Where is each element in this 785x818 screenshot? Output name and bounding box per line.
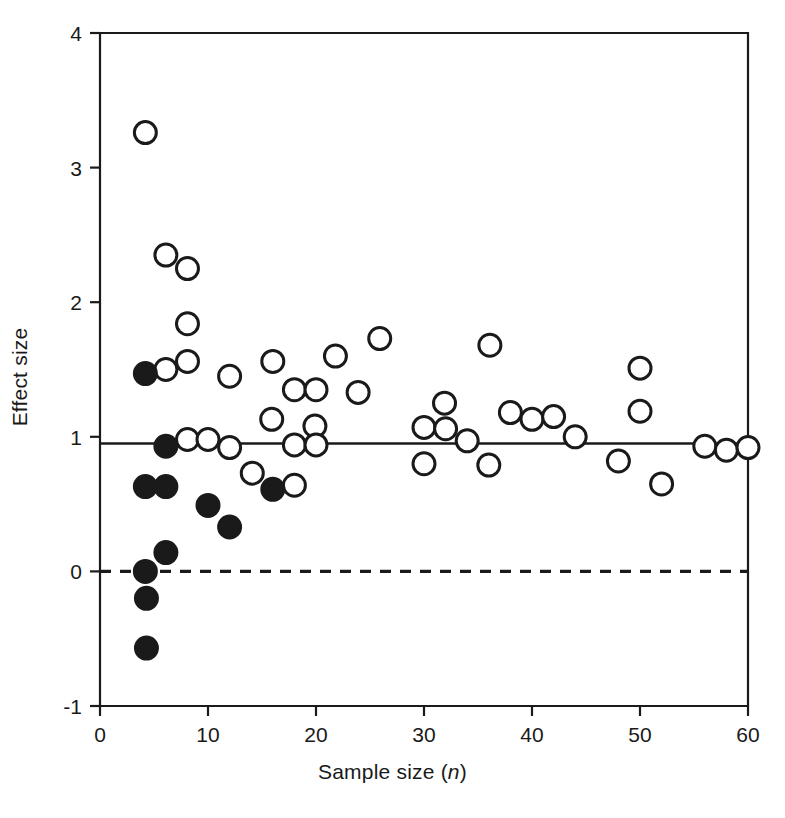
- open-circle: [499, 402, 521, 424]
- data-points: [134, 122, 759, 660]
- open-circle: [176, 313, 198, 335]
- open-circle: [347, 381, 369, 403]
- y-tick-label: 2: [70, 291, 82, 314]
- open-circle: [434, 392, 456, 414]
- scatter-plot-canvas: 0102030405060-101234: [0, 0, 785, 818]
- open-circle: [261, 408, 283, 430]
- y-axis-title: Effect size: [8, 277, 32, 477]
- open-circle: [283, 434, 305, 456]
- open-circle: [176, 428, 198, 450]
- x-tick-label: 0: [94, 723, 106, 746]
- open-circle: [694, 435, 716, 457]
- open-circle: [715, 439, 737, 461]
- open-circle: [369, 328, 391, 350]
- filled-circle: [134, 560, 156, 582]
- open-circle: [176, 350, 198, 372]
- y-tick-label: -1: [63, 695, 82, 718]
- funnel-plot-figure: 0102030405060-101234 Sample size (n) Eff…: [0, 0, 785, 818]
- open-circle: [413, 416, 435, 438]
- open-circle: [456, 430, 478, 452]
- filled-circle: [135, 587, 157, 609]
- open-circle: [241, 462, 263, 484]
- filled-circle: [219, 516, 241, 538]
- open-circle: [564, 426, 586, 448]
- open-circle: [176, 258, 198, 280]
- open-circle: [413, 453, 435, 475]
- open-circle: [197, 428, 219, 450]
- open-circle: [629, 357, 651, 379]
- x-tick-label: 30: [412, 723, 435, 746]
- open-circle: [521, 408, 543, 430]
- filled-circle: [155, 542, 177, 564]
- axis-tick-labels: 0102030405060-101234: [63, 22, 759, 746]
- open-circle: [651, 473, 673, 495]
- open-circle: [435, 418, 457, 440]
- filled-circle: [155, 435, 177, 457]
- open-circle: [479, 334, 501, 356]
- open-circle: [305, 434, 327, 456]
- x-axis-title-text: Sample size: [318, 760, 435, 783]
- filled-circle: [155, 476, 177, 498]
- filled-circle: [134, 476, 156, 498]
- filled-circle: [197, 494, 219, 516]
- open-circle: [283, 379, 305, 401]
- open-circle: [155, 244, 177, 266]
- x-tick-label: 20: [304, 723, 327, 746]
- filled-circle: [262, 478, 284, 500]
- y-tick-label: 4: [70, 22, 82, 45]
- x-tick-label: 50: [628, 723, 651, 746]
- open-circle: [155, 359, 177, 381]
- y-tick-label: 1: [70, 426, 82, 449]
- y-tick-label: 3: [70, 157, 82, 180]
- open-circle: [305, 379, 327, 401]
- open-circle: [262, 350, 284, 372]
- open-circle: [478, 454, 500, 476]
- filled-circle: [135, 637, 157, 659]
- x-tick-label: 40: [520, 723, 543, 746]
- open-circle: [283, 474, 305, 496]
- x-axis-title-paren-close: ): [460, 760, 467, 783]
- open-circle: [219, 365, 241, 387]
- x-axis-title-symbol: n: [448, 760, 460, 783]
- x-axis-title-paren: (: [435, 760, 448, 783]
- open-circle: [324, 345, 346, 367]
- open-circle: [543, 406, 565, 428]
- x-tick-label: 60: [736, 723, 759, 746]
- y-tick-label: 0: [70, 560, 82, 583]
- open-circle: [219, 437, 241, 459]
- x-tick-label: 10: [196, 723, 219, 746]
- open-circle: [134, 122, 156, 144]
- x-axis-title: Sample size (n): [0, 760, 785, 784]
- open-circle: [607, 450, 629, 472]
- open-circle: [737, 437, 759, 459]
- filled-circle: [134, 363, 156, 385]
- open-circle: [629, 400, 651, 422]
